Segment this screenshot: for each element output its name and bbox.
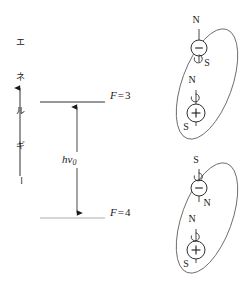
level-label-upper: F=3 <box>110 89 130 101</box>
axis-label-char-0: エ <box>10 37 30 49</box>
atom-lower-orbit <box>164 155 246 281</box>
axis-label-char-3: ギ <box>10 141 30 153</box>
transition-label: hν0 <box>60 152 78 168</box>
atom-lower-electron-pole-south: S <box>190 154 202 165</box>
level-label-lower: F=4 <box>110 206 130 218</box>
level-label-upper-var: F <box>110 89 117 101</box>
energy-axis-label: エ ネ ル ギ ー <box>10 14 30 209</box>
atom-upper-nucleus-pole-north: N <box>186 74 198 85</box>
atom-upper-orbit <box>164 21 246 147</box>
level-label-lower-value: 4 <box>125 206 131 218</box>
axis-label-char-1: ネ <box>10 72 30 84</box>
atom-upper-nucleus-pole-south: S <box>180 121 192 132</box>
transition-label-subscript: 0 <box>72 158 76 167</box>
atom-upper-electron-pole-south: S <box>201 57 213 68</box>
atom-upper-electron-pole-north: N <box>190 14 202 25</box>
axis-label-char-2: ル <box>10 106 30 118</box>
diagram-canvas <box>0 0 246 293</box>
level-label-lower-var: F <box>110 206 117 218</box>
level-label-upper-eq: = <box>117 89 125 101</box>
atom-lower-electron-pole-north: N <box>201 197 213 208</box>
hyperfine-diagram: エ ネ ル ギ ー F=3 F=4 hν0 N S N S S N N S <box>0 0 246 293</box>
level-label-lower-eq: = <box>117 206 125 218</box>
level-label-upper-value: 3 <box>125 89 131 101</box>
axis-label-char-4: ー <box>15 171 26 191</box>
atom-lower-nucleus-pole-north: N <box>186 213 198 224</box>
atom-lower-nucleus-pole-south: S <box>180 258 192 269</box>
